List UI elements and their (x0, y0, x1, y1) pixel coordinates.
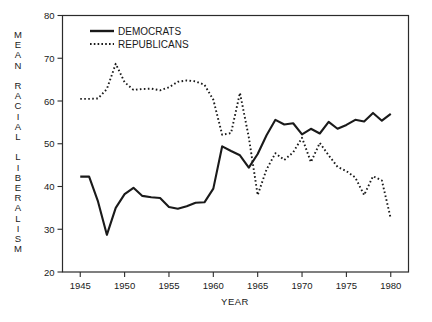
x-tick-label-1960: 1960 (203, 280, 224, 291)
x-tick-label-1980: 1980 (380, 280, 401, 291)
x-axis-title: YEAR (221, 296, 249, 307)
x-tick-label-1975: 1975 (336, 280, 357, 291)
y-tick-label-40: 40 (44, 181, 55, 192)
x-tick-label-1955: 1955 (158, 280, 179, 291)
legend-label-democrats: DEMOCRATS (118, 26, 181, 37)
y-axis-title-char: L (15, 131, 20, 142)
x-tick-label-1950: 1950 (114, 280, 135, 291)
racial-liberalism-line-chart: 20304050607080 1945195019551960196519701… (0, 0, 432, 322)
y-axis-title-char: N (15, 60, 22, 71)
x-tick-label-1965: 1965 (247, 280, 268, 291)
x-tick-label-1970: 1970 (291, 280, 312, 291)
y-tick-label-60: 60 (44, 96, 55, 107)
y-tick-label-80: 80 (44, 10, 55, 21)
chart-background (0, 0, 432, 322)
y-tick-label-50: 50 (44, 138, 55, 149)
chart-figure: 20304050607080 1945195019551960196519701… (0, 0, 432, 322)
y-axis-title-char: M (14, 243, 22, 254)
y-tick-label-20: 20 (44, 267, 55, 278)
y-tick-label-30: 30 (44, 224, 55, 235)
legend-label-republicans: REPUBLICANS (118, 39, 189, 50)
y-tick-label-70: 70 (44, 53, 55, 64)
x-tick-label-1945: 1945 (70, 280, 91, 291)
